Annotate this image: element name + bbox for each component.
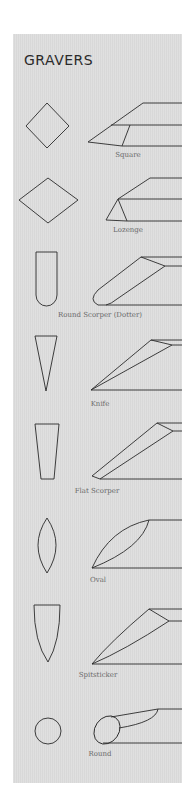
label-knife: Knife xyxy=(91,400,110,408)
label-round-scorper: Round Scorper (Dotter) xyxy=(58,311,142,319)
knife-graver-diagram xyxy=(35,336,182,391)
square-graver-diagram xyxy=(26,103,182,148)
label-oval: Oval xyxy=(90,576,106,584)
round-scorper-section-icon xyxy=(36,252,57,306)
label-lozenge: Lozenge xyxy=(113,226,143,234)
knife-section-icon xyxy=(35,336,57,391)
spitsticker-graver-diagram xyxy=(34,605,182,664)
square-section-icon xyxy=(26,103,69,148)
round-section-icon xyxy=(35,718,61,744)
label-round: Round xyxy=(89,750,112,758)
spitsticker-section-icon xyxy=(34,605,60,662)
round-scorper-graver-diagram xyxy=(36,252,182,306)
flat-scorper-section-icon xyxy=(35,424,59,479)
label-spitsticker: Spitsticker xyxy=(79,671,118,679)
round-graver-diagram xyxy=(35,709,182,749)
label-square: Square xyxy=(115,151,140,159)
label-flat-scorper: Flat Scorper xyxy=(75,487,120,495)
lozenge-section-icon xyxy=(19,178,78,223)
oval-graver-diagram xyxy=(38,518,182,573)
lozenge-graver-diagram xyxy=(19,178,182,223)
oval-section-icon xyxy=(38,518,56,573)
flat-scorper-graver-diagram xyxy=(35,423,182,479)
